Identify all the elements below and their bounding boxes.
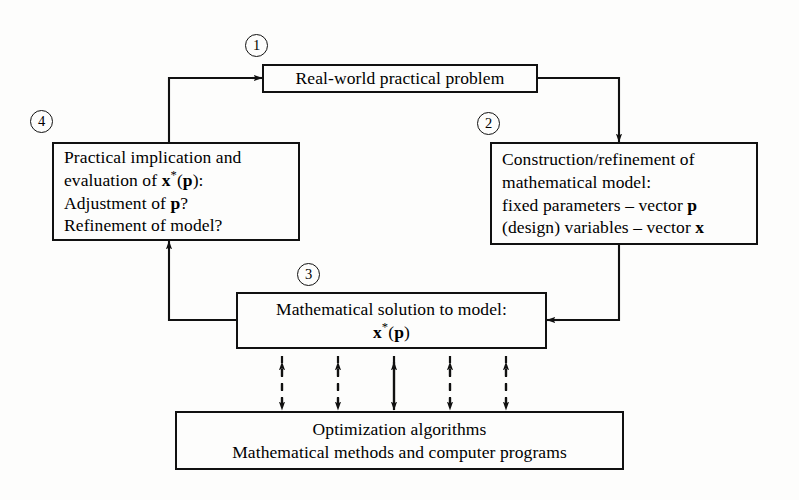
construction-refinement-box: Construction/refinement of mathematical … — [490, 142, 758, 245]
optimization-algorithms-box: Optimization algorithms Mathematical met… — [175, 411, 624, 470]
optimization-algorithms-line-2: Mathematical methods and computer progra… — [177, 441, 622, 464]
connector-construction-to-solution — [547, 245, 619, 320]
construction-refinement-line-3: fixed parameters – vector p — [502, 194, 756, 217]
connector-realworld-to-construction — [538, 78, 619, 142]
mathematical-solution-box: Mathematical solution to model: x*(p) — [236, 292, 547, 349]
mathematical-solution-line-2: x*(p) — [238, 321, 545, 344]
practical-implication-line-4: Refinement of model? — [64, 214, 298, 237]
practical-implication-line-3: Adjustment of p? — [64, 192, 298, 215]
connector-solution-to-implication — [169, 241, 236, 320]
practical-implication-box: Practical implication and evaluation of … — [52, 142, 300, 241]
construction-refinement-line-2: mathematical model: — [502, 171, 756, 194]
practical-implication-line-1: Practical implication and — [64, 146, 298, 169]
construction-refinement-line-1: Construction/refinement of — [502, 148, 756, 171]
step-marker-1: 1 — [245, 34, 268, 57]
step-marker-2: 2 — [477, 112, 500, 135]
step-marker-4: 4 — [30, 110, 53, 133]
practical-implication-line-2: evaluation of x*(p): — [64, 169, 298, 192]
step-marker-3: 3 — [297, 263, 320, 286]
optimization-algorithms-line-1: Optimization algorithms — [177, 418, 622, 441]
diagram-canvas: 1 2 3 4 Real-world practical problem Pra… — [0, 0, 799, 500]
construction-refinement-line-4: (design) variables – vector x — [502, 216, 756, 239]
real-world-problem-line-1: Real-world practical problem — [264, 67, 536, 90]
mathematical-solution-line-1: Mathematical solution to model: — [238, 298, 545, 321]
connector-implication-to-realworld — [169, 78, 262, 143]
real-world-problem-box: Real-world practical problem — [262, 64, 538, 93]
